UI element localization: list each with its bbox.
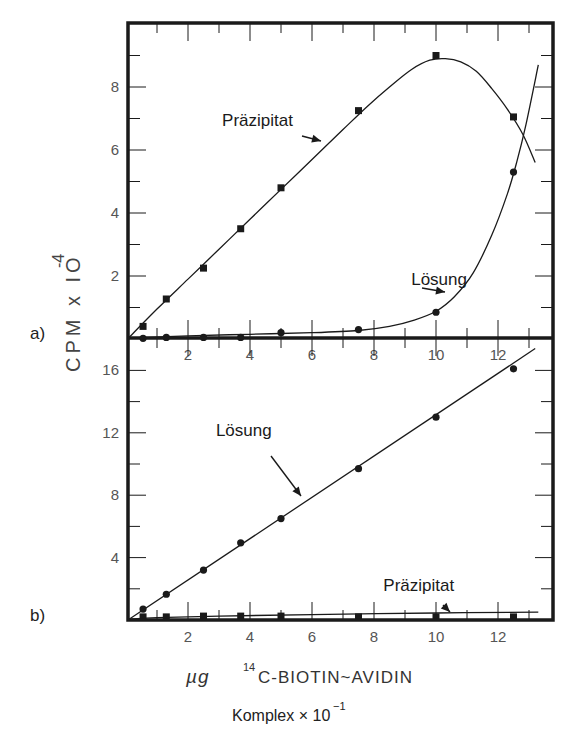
data-point-square	[140, 323, 147, 330]
series-line-loesung	[129, 349, 535, 620]
panel-b-plot: 24681012481216LösungPräzipitat	[102, 338, 553, 645]
x-axis-title-line2: Komplex × 10	[232, 707, 330, 724]
x-axis-title-main: C-BIOTIN~AVIDIN	[258, 668, 413, 687]
data-point-circle	[277, 515, 284, 522]
chart-svg: 246810122468PräzipitatLösung 24681012481…	[0, 0, 576, 737]
series-annotation: Lösung	[216, 421, 272, 440]
data-point-circle	[200, 566, 207, 573]
series-line-praezipitat	[129, 612, 538, 619]
data-point-square	[510, 113, 517, 120]
y-tick-label: 4	[111, 204, 119, 221]
figure: 246810122468PräzipitatLösung 24681012481…	[0, 0, 576, 737]
y-tick-label: 16	[102, 361, 119, 378]
y-axis-title: CPM x IO -4	[50, 253, 84, 372]
y-tick-label: 8	[111, 78, 119, 95]
data-point-square	[200, 265, 207, 272]
arrowhead-icon	[441, 603, 450, 612]
panel-a-plot: 246810122468PräzipitatLösung	[111, 23, 553, 363]
y-tick-label: 12	[102, 424, 119, 441]
y-tick-label: 6	[111, 141, 119, 158]
data-point-circle	[510, 365, 517, 372]
x-axis-title-line2-exponent: −1	[333, 700, 346, 712]
data-point-circle	[163, 591, 170, 598]
data-point-circle	[432, 414, 439, 421]
y-tick-label: 2	[111, 267, 119, 284]
data-point-circle	[139, 605, 146, 612]
data-point-circle	[237, 539, 244, 546]
data-point-circle	[355, 465, 362, 472]
x-tick-label: 12	[490, 628, 507, 645]
arrowhead-icon	[292, 486, 301, 496]
y-tick-label: 8	[111, 486, 119, 503]
x-tick-label: 4	[246, 628, 254, 645]
panel-a-label: a)	[30, 324, 45, 343]
y-axis-title-exponent: -4	[50, 254, 67, 268]
x-axis-title-unit: µg	[185, 666, 210, 687]
data-point-square	[355, 107, 362, 114]
y-axis-title-text: CPM x IO	[62, 253, 84, 372]
series-annotation: Lösung	[411, 270, 467, 289]
x-tick-label: 8	[370, 628, 378, 645]
series-line-praezipitat	[129, 59, 535, 338]
data-point-square	[237, 225, 244, 232]
data-point-square	[278, 184, 285, 191]
x-tick-label: 6	[308, 628, 316, 645]
series-annotation: Präzipitat	[383, 576, 454, 595]
data-point-circle	[432, 309, 439, 316]
plot-frame	[128, 23, 553, 620]
arrowhead-icon	[311, 135, 321, 143]
series-line-loesung	[129, 65, 538, 338]
data-point-circle	[277, 329, 284, 336]
data-point-square	[163, 295, 170, 302]
x-tick-label: 2	[184, 628, 192, 645]
panel-b-label: b)	[30, 606, 45, 625]
data-point-circle	[510, 168, 517, 175]
x-axis-title: µg 14 C-BIOTIN~AVIDIN Komplex × 10 −1	[185, 661, 413, 724]
data-point-circle	[355, 326, 362, 333]
data-point-square	[433, 52, 440, 59]
series-annotation: Präzipitat	[222, 111, 293, 130]
x-axis-title-isotope: 14	[243, 661, 255, 673]
y-tick-label: 4	[111, 549, 119, 566]
x-tick-label: 10	[428, 628, 445, 645]
